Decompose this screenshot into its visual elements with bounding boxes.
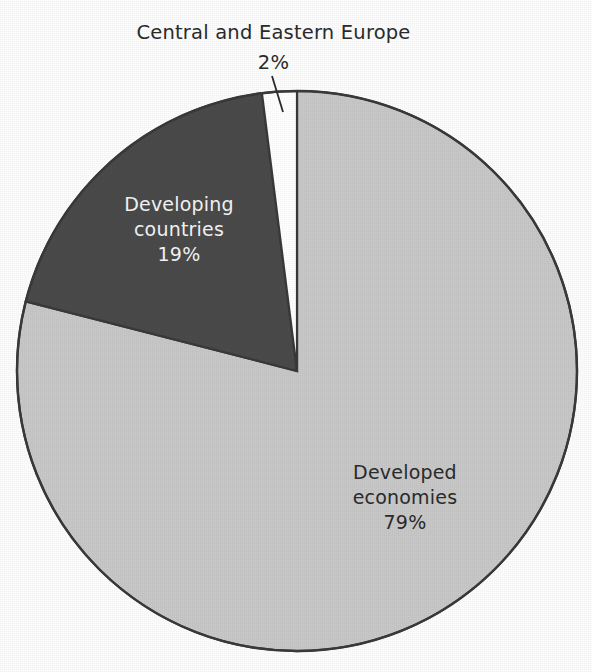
pie-label-developed-line1: Developed — [330, 460, 480, 485]
pie-label-developed-value: 79% — [330, 510, 480, 535]
pie-chart-figure: Central and Eastern Europe 2% Developing… — [0, 0, 592, 672]
pie-label-developed-economies: Developed economies 79% — [330, 460, 480, 535]
pie-chart-svg — [0, 0, 592, 672]
pie-label-developing-value: 19% — [104, 242, 254, 267]
pie-label-developing-countries: Developing countries 19% — [104, 192, 254, 267]
pie-label-developing-line1: Developing — [104, 192, 254, 217]
pie-label-cee-name: Central and Eastern Europe — [136, 21, 410, 44]
pie-label-developed-line2: economies — [330, 485, 480, 510]
pie-label-developing-line2: countries — [104, 217, 254, 242]
pie-label-central-and-eastern-europe: Central and Eastern Europe 2% — [96, 20, 451, 75]
pie-label-cee-value: 2% — [96, 50, 451, 76]
